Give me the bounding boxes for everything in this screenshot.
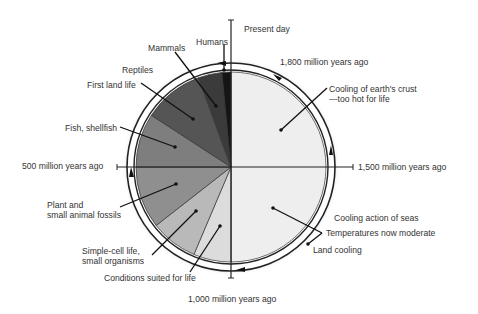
geologic-clock-diagram bbox=[0, 0, 478, 314]
era-label: Reptiles bbox=[122, 65, 153, 75]
leader-dot bbox=[218, 224, 222, 228]
time-marker-label: 500 million years ago bbox=[22, 161, 103, 171]
era-label: Humans bbox=[196, 37, 228, 47]
leader-dot bbox=[194, 209, 198, 213]
leader-dot bbox=[279, 128, 283, 132]
era-label: Simple-cell life, small organisms bbox=[82, 246, 144, 266]
time-marker-label: 1,500 million years ago bbox=[358, 162, 446, 172]
era-label: Cooling of earth's crust —too hot for li… bbox=[329, 84, 417, 104]
leader-dot bbox=[173, 145, 177, 149]
time-marker-label: Present day bbox=[244, 24, 290, 34]
time-marker-label: 1,800 million years ago bbox=[280, 57, 368, 67]
era-label: First land life bbox=[87, 80, 136, 90]
leader-dot bbox=[191, 117, 195, 121]
leader-dot bbox=[222, 68, 226, 72]
era-label: Conditions suited for life bbox=[104, 273, 196, 283]
era-label: Land cooling bbox=[313, 245, 362, 255]
leader-dot bbox=[214, 104, 218, 108]
leader-dot bbox=[271, 206, 275, 210]
era-label: Plant and small animal fossils bbox=[47, 200, 121, 220]
era-label: Fish, shellfish bbox=[65, 123, 117, 133]
era-label: Temperatures now moderate bbox=[326, 228, 435, 238]
leader-dot bbox=[306, 242, 310, 246]
time-marker-label: 1,000 million years ago bbox=[188, 294, 276, 304]
era-label: Cooling action of seas bbox=[334, 213, 419, 223]
leader-dot bbox=[174, 182, 178, 186]
era-label: Mammals bbox=[148, 43, 185, 53]
